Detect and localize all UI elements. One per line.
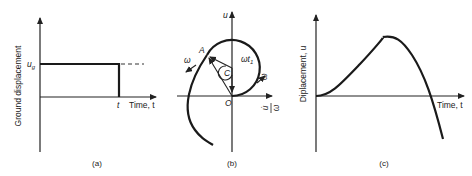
displacement-curve [316,37,443,139]
svg-text:ω: ω [271,104,281,111]
u-axis-label: u [223,10,228,20]
x-axis-label: Time, t [129,100,155,110]
radius-ca [210,57,232,68]
ug-label: ug [27,59,36,70]
step-pulse [40,64,119,97]
velocity-axis-label: u̇ ω [260,103,281,113]
omega-arrow-left [186,65,196,72]
origin-label: O [225,98,232,108]
y-axis-label: Ground displacement [13,45,23,126]
center-c-label: C [224,68,231,78]
caption-b: (b) [227,159,237,168]
svg-text:u̇: u̇ [260,105,270,110]
caption-a: (a) [92,159,102,168]
point-a-label: A [198,45,205,55]
omega-left-label: ω [184,55,191,65]
panel-b: A C O u ωt1 ω ω u̇ ω (b) [177,10,281,168]
x-axis-label: Time, t [437,100,463,110]
omega-right-label: ω [259,73,269,80]
figure: ug t Time, t Ground displacement (a) A C… [0,0,472,176]
panel-a: ug t Time, t Ground displacement (a) [13,18,156,168]
t-label: t [117,100,120,110]
caption-c: (c) [379,159,389,168]
y-axis-label: Diplacement, u [298,45,308,102]
panel-c: Time, t Diplacement, u (c) [298,15,464,168]
angle-label: ωt1 [241,54,253,65]
